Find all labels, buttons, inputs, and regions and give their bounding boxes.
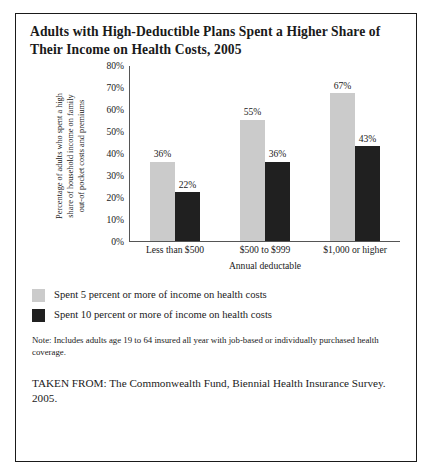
- bar-item[interactable]: 55%: [240, 66, 265, 241]
- figure-note: Note: Includes adults age 19 to 64 insur…: [32, 334, 400, 359]
- chart-plot-area: Percentage of adults who spent a high sh…: [16, 66, 416, 281]
- bar-value-label: 55%: [244, 107, 262, 117]
- bar-item[interactable]: 67%: [330, 66, 355, 241]
- y-axis-tick-label: 60%: [106, 105, 124, 115]
- legend-label: Spent 10 percent or more of income on he…: [54, 310, 272, 321]
- bar-rect[interactable]: [355, 146, 380, 241]
- y-axis-tick-label: 80%: [106, 61, 124, 71]
- legend-swatch: [32, 309, 45, 322]
- chart-axes: 36%22%55%36%67%43%: [129, 66, 400, 242]
- y-axis-title-text: Percentage of adults who spent a high sh…: [54, 66, 87, 246]
- x-axis-tick-label: $1,000 or higher: [310, 244, 400, 255]
- y-axis-tick-label: 0%: [111, 237, 124, 247]
- bar-value-label: 67%: [334, 81, 352, 91]
- y-axis-tick-label: 20%: [106, 193, 124, 203]
- legend-item[interactable]: Spent 5 percent or more of income on hea…: [32, 289, 416, 302]
- x-axis-line: [129, 241, 400, 242]
- bar-value-label: 22%: [179, 180, 197, 190]
- bar-item[interactable]: 22%: [175, 66, 200, 241]
- bar-rect[interactable]: [265, 162, 290, 241]
- bar-rect[interactable]: [175, 192, 200, 240]
- legend-label: Spent 5 percent or more of income on hea…: [54, 290, 267, 301]
- y-axis-tick-label: 70%: [106, 83, 124, 93]
- y-axis-tick-label: 10%: [106, 215, 124, 225]
- legend-item[interactable]: Spent 10 percent or more of income on he…: [32, 309, 416, 322]
- bar-group: 55%36%: [220, 66, 310, 241]
- bars-layer: 36%22%55%36%67%43%: [130, 66, 400, 241]
- y-axis-tick-label: 40%: [106, 149, 124, 159]
- bar-group: 67%43%: [310, 66, 400, 241]
- y-axis-tick-labels: 0%10%20%30%40%50%60%70%80%: [94, 66, 124, 242]
- figure-frame: Adults with High-Deductible Plans Spent …: [15, 13, 417, 462]
- bar-value-label: 36%: [154, 149, 172, 159]
- bar-rect[interactable]: [240, 120, 265, 241]
- x-axis-tick-label: $500 to $999: [220, 244, 310, 255]
- y-axis-tick-label: 50%: [106, 127, 124, 137]
- x-axis-title: Annual deductable: [130, 260, 400, 271]
- bar-item[interactable]: 36%: [150, 66, 175, 241]
- y-axis-title: Percentage of adults who spent a high sh…: [54, 0, 101, 66]
- x-axis-tick-label: Less than $500: [130, 244, 220, 255]
- x-axis-tick-labels: Less than $500$500 to $999$1,000 or high…: [130, 244, 400, 255]
- bar-value-label: 43%: [359, 134, 377, 144]
- bar-rect[interactable]: [150, 162, 175, 241]
- figure-source: TAKEN FROM: The Commonwealth Fund, Bienn…: [32, 376, 400, 407]
- y-axis-tick-label: 30%: [106, 171, 124, 181]
- chart-legend: Spent 5 percent or more of income on hea…: [32, 289, 416, 322]
- bar-value-label: 36%: [269, 149, 287, 159]
- bar-item[interactable]: 36%: [265, 66, 290, 241]
- bar-group: 36%22%: [130, 66, 220, 241]
- legend-swatch: [32, 289, 45, 302]
- bar-item[interactable]: 43%: [355, 66, 380, 241]
- bar-rect[interactable]: [330, 93, 355, 240]
